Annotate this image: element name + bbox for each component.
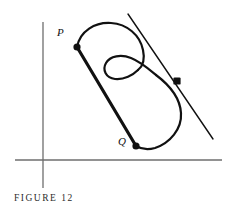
point-p-label: P bbox=[57, 27, 64, 38]
figure-container: P Q FIGURE 12 bbox=[0, 0, 235, 215]
point-q-label: Q bbox=[118, 136, 126, 147]
looped-curve bbox=[77, 23, 181, 149]
point-p-dot bbox=[73, 43, 80, 50]
curve-inner-loop bbox=[104, 56, 156, 79]
figure-caption: FIGURE 12 bbox=[14, 193, 74, 203]
figure-drawing-canvas bbox=[0, 0, 235, 215]
coordinate-axes bbox=[15, 22, 222, 188]
curve-right-lobe bbox=[136, 75, 181, 149]
point-q-dot bbox=[132, 142, 139, 149]
tangent-line bbox=[128, 14, 213, 139]
tangency-point-dot bbox=[173, 77, 180, 84]
